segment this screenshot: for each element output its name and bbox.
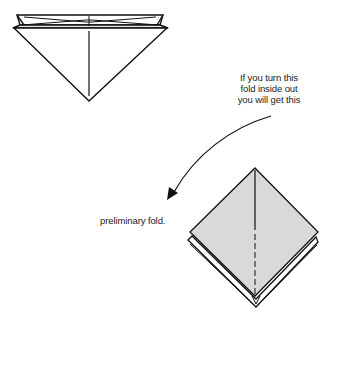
annotation-line-3: you will get this	[221, 94, 317, 105]
annotation-line-2: fold inside out	[221, 83, 317, 94]
preliminary-fold-label: preliminary fold.	[100, 215, 165, 226]
inside-out-annotation: If you turn this fold inside out you wil…	[221, 72, 317, 105]
preliminary-fold-diamond	[188, 168, 318, 307]
annotation-line-1: If you turn this	[221, 72, 317, 83]
inverted-triangle-figure	[13, 15, 168, 101]
origami-diagram	[0, 0, 337, 371]
